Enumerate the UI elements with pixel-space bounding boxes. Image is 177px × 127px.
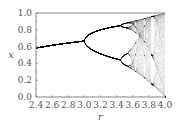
x-tick-label: 3.4 xyxy=(109,100,124,110)
y-tick-label: 0.4 xyxy=(18,58,33,68)
x-tick-label: 3.2 xyxy=(93,100,107,110)
x-tick-label: 4.0 xyxy=(158,100,173,110)
bifurcation-chart: 2.42.62.83.03.23.43.63.84.0 0.00.20.40.6… xyxy=(0,0,177,127)
x-axis-title: r xyxy=(98,111,104,122)
x-tick-label: 3.6 xyxy=(126,100,141,110)
y-ticks: 0.00.20.40.60.81.0 xyxy=(18,8,38,102)
x-tick-label: 2.8 xyxy=(61,100,76,110)
attractor-points xyxy=(36,13,165,97)
y-axis-title: x xyxy=(8,49,14,60)
y-tick-label: 0.2 xyxy=(18,75,32,85)
x-tick-label: 3.0 xyxy=(77,100,92,110)
y-tick-label: 1.0 xyxy=(18,8,33,18)
y-tick-label: 0.0 xyxy=(18,92,33,102)
y-tick-label: 0.6 xyxy=(18,42,33,52)
y-tick-label: 0.8 xyxy=(18,25,33,35)
x-tick-label: 3.8 xyxy=(142,100,157,110)
x-tick-label: 2.6 xyxy=(45,100,60,110)
plot-points xyxy=(36,13,165,97)
